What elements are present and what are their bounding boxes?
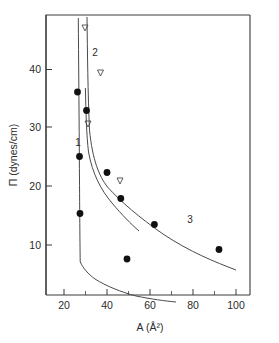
curve-label-2: 2 <box>92 47 98 58</box>
y-tick-group <box>46 70 52 246</box>
x-ticklabel-100: 100 <box>227 299 245 311</box>
y-ticklabel-40: 40 <box>29 63 41 75</box>
y-ticklabel-10: 10 <box>29 239 41 251</box>
x-ticklabel-40: 40 <box>101 299 113 311</box>
x-ticklabel-60: 60 <box>144 299 156 311</box>
y-ticklabel-20: 20 <box>29 180 41 192</box>
figure-container: 40 30 20 10 20 40 60 80 100 Π (dynes/cm)… <box>0 0 279 343</box>
data-point <box>74 89 81 96</box>
open-triangle-marker <box>85 121 91 127</box>
series-3-points <box>124 256 131 263</box>
x-ticklabel-20: 20 <box>58 299 70 311</box>
open-triangle-marker <box>98 70 104 76</box>
curve-3-path <box>80 262 176 302</box>
curve-label-1: 1 <box>75 137 81 148</box>
x-ticklabel-80: 80 <box>187 299 199 311</box>
x-tick-group <box>64 289 236 295</box>
data-point <box>83 107 90 114</box>
data-point <box>117 195 124 202</box>
data-point <box>77 210 84 217</box>
y-ticklabel-30: 30 <box>29 121 41 133</box>
curve-label-3: 3 <box>187 214 193 225</box>
data-point <box>76 153 83 160</box>
y-axis-title: Π (dynes/cm) <box>7 124 19 186</box>
curve-2-path <box>87 17 236 270</box>
x-axis-title: A (Å²) <box>137 321 164 333</box>
series-1-points <box>74 89 90 217</box>
plot-svg: 40 30 20 10 20 40 60 80 100 Π (dynes/cm)… <box>0 0 279 343</box>
data-point <box>216 246 223 253</box>
open-triangle-marker <box>117 178 123 184</box>
data-point <box>151 221 158 228</box>
data-point <box>104 169 111 176</box>
data-point <box>124 256 131 263</box>
